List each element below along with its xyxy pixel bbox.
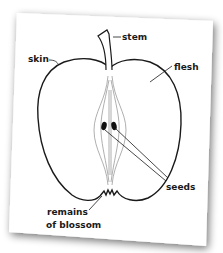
apple-diagram: stem skin flesh seeds remains of blossom <box>0 0 223 253</box>
label-stem: stem <box>122 32 147 42</box>
label-seeds: seeds <box>166 182 195 192</box>
label-skin: skin <box>28 54 49 64</box>
label-blossom-line2: of blossom <box>46 220 101 230</box>
diagram-card: stem skin flesh seeds remains of blossom <box>0 0 223 253</box>
label-blossom-line1: remains <box>47 207 88 217</box>
label-flesh: flesh <box>174 62 199 72</box>
